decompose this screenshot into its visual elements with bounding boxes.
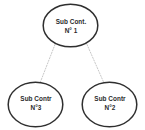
connector-node1-node3 xyxy=(40,45,55,84)
node-sub-contr-3[interactable] xyxy=(8,82,63,127)
node-sub-cont-1[interactable] xyxy=(43,4,98,47)
node-sub-contr-2[interactable] xyxy=(82,82,137,127)
diagram-canvas: Sub Cont. N° 1 Sub Contr N°3 Sub Contr N… xyxy=(0,0,145,130)
connector-node1-node2 xyxy=(87,45,104,84)
diagram-graphics xyxy=(0,0,145,130)
